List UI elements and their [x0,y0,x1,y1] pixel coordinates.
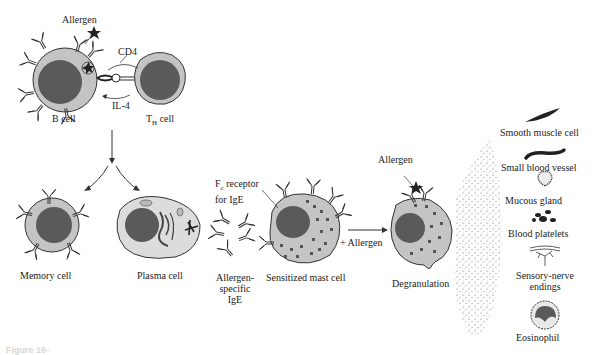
allergen-specific-ige-label: Allergen- specific IgE [210,272,260,305]
th-cell [134,52,185,104]
mediator-release-spray [454,140,502,336]
target-small-blood-vessel-label: Small blood vessel [501,162,577,173]
figure-caption-fragment: Figure 16- [6,345,49,355]
degranulating-mast-cell [391,185,452,268]
plus-allergen-label: + Allergen [340,237,382,248]
plasma-cell-label: Plasma cell [137,270,183,281]
il4-label: IL-4 [112,100,130,111]
cd4-label: CD4 [118,46,137,57]
eosinophil-icon [531,301,559,329]
smooth-muscle-cell-icon [525,108,560,122]
memory-cell-label: Memory cell [20,270,71,281]
target-smooth-muscle-cell-label: Smooth muscle cell [500,127,579,138]
allergen-icon [87,26,101,39]
free-ige-group [208,210,255,260]
target-blood-platelets-label: Blood platelets [508,228,568,239]
blood-platelets-icon [532,210,556,222]
small-blood-vessel-icon [526,150,564,158]
target-mucous-gland-label: Mucous gland [505,195,562,206]
plasma-cell [117,197,200,259]
sensory-nerve-endings-icon [530,246,560,266]
target-sensory-nerve-endings-label: Sensory-nerve endings [505,270,585,292]
sensitized-mast-cell-label: Sensitized mast cell [266,272,345,283]
b-cell [18,32,104,124]
mucous-gland-icon [538,172,552,186]
memory-cell [16,189,89,260]
target-eosinophil-label: Eosinophil [516,332,559,343]
fc-receptor-label: Fc receptor for IgE [215,178,259,205]
allergen-label-bcell: Allergen [62,14,97,25]
sensitized-mast-cell [259,179,352,264]
b-cell-label: B cell [52,113,76,124]
allergen-label-degranulation: Allergen [378,154,413,165]
degranulation-label: Degranulation [392,278,449,289]
th-cell-label: TH cell [146,113,174,129]
